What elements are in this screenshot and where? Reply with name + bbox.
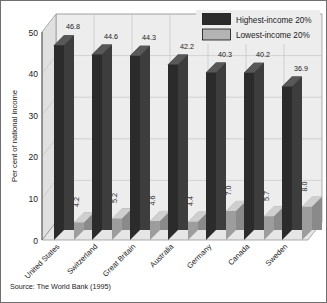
bar-high-australia-front [168,54,178,240]
y-tick-50: 50 [29,28,39,38]
y-tick-30: 30 [29,111,39,121]
value-label-high-united-states: 46.8 [66,22,80,31]
value-label-high-sweden: 36.9 [294,64,308,73]
y-tick-10: 10 [29,194,39,204]
bar-high-united-states-front [54,35,64,240]
y-tick-20: 20 [29,152,39,162]
legend-swatch-lowest-income [203,29,231,40]
value-label-low-australia: 4.4 [186,196,195,206]
legend-swatch-highest-income [203,14,231,25]
value-label-high-australia: 42.2 [180,42,194,51]
value-label-low-united-states: 4.2 [72,197,81,207]
bar-high-canada-side [254,63,264,230]
legend-label-highest-income: Highest-income 20% [236,16,312,25]
bar-high-germany-side [216,62,226,230]
value-label-high-germany: 40.3 [218,50,232,59]
value-label-low-switzerland: 5.2 [110,193,119,203]
income-distribution-bar-chart: 50 40 30 20 10 0 Per cent of national in… [0,0,327,303]
y-axis-title: Per cent of national income [10,90,19,182]
value-label-high-switzerland: 44.6 [104,32,118,41]
value-label-high-great-britain: 44.3 [142,33,156,42]
chart-legend: Highest-income 20% Lowest-income 20% [196,10,320,44]
bar-high-canada-front [244,63,254,240]
y-tick-0: 0 [33,236,38,246]
chart-figure: 50 40 30 20 10 0 Per cent of national in… [0,0,327,303]
legend-label-lowest-income: Lowest-income 20% [236,31,310,40]
plot-left-wall [42,14,56,240]
value-label-low-germany: 7.0 [224,186,233,196]
source-caption: Source: The World Bank (1995) [10,282,111,291]
value-label-low-canada: 5.7 [262,191,271,201]
value-label-low-great-britain: 4.6 [148,196,157,206]
bar-high-sweden-side [292,77,302,231]
y-tick-40: 40 [29,69,39,79]
bar-high-switzerland-front [92,45,102,241]
bar-high-germany-front [206,62,216,240]
bar-high-great-britain-front [130,46,140,240]
bar-high-sweden-front [282,77,292,241]
value-label-high-canada: 40.2 [256,50,270,59]
value-label-low-sweden: 8.0 [300,182,309,192]
